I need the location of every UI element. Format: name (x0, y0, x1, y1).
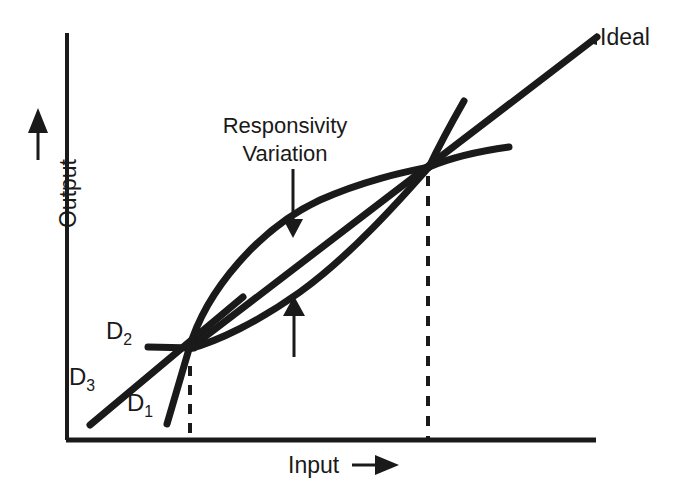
series-label-ideal: Ideal (600, 26, 650, 49)
series-label-d3: D3 (69, 365, 95, 394)
responsivity-variation-line-2: Variation (242, 141, 327, 166)
y-axis-label: Output (57, 124, 80, 264)
responsivity-variation-line-1: Responsivity (223, 113, 348, 138)
series-label-d1: D1 (127, 391, 153, 420)
arrow-right-icon (375, 455, 399, 475)
responsivity-variation-label: ResponsivityVariation (220, 112, 350, 167)
series-label-d3-base: D (69, 363, 86, 390)
series-label-d3-subscript: 3 (86, 377, 95, 394)
series-label-d2-base: D (106, 317, 123, 344)
series-label-d1-base: D (127, 389, 144, 416)
plot-canvas (0, 0, 679, 496)
series-ideal-line (189, 37, 597, 349)
arrow-down-icon (283, 219, 303, 238)
series-label-d1-subscript: 1 (144, 403, 153, 420)
series-label-d2-subscript: 2 (123, 331, 132, 348)
series-label-d2: D2 (106, 319, 132, 348)
responsivity-variation-figure: Ideal ResponsivityVariation D2 D3 D1 Out… (0, 0, 679, 496)
x-axis-label: Input (288, 454, 339, 477)
arrow-up-icon (28, 108, 48, 133)
